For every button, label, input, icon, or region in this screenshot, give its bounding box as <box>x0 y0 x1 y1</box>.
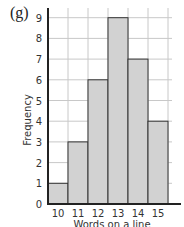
y-tick-label: 2 <box>36 158 42 169</box>
x-axis-label: Words on a line <box>73 219 150 227</box>
histogram-chart: 0123456789101112131415Words on a lineFre… <box>0 0 184 227</box>
y-tick-label: 9 <box>36 13 42 24</box>
histogram-bar <box>68 142 88 204</box>
y-axis-label: Frequency <box>22 94 33 146</box>
y-tick-label: 3 <box>36 137 42 148</box>
histogram-bar <box>108 18 128 204</box>
y-tick-label: 0 <box>36 199 42 210</box>
x-tick-label: 13 <box>112 208 125 219</box>
y-tick-label: 6 <box>36 75 42 86</box>
histogram-bar <box>148 121 168 204</box>
x-tick-label: 10 <box>52 208 65 219</box>
y-tick-label: 5 <box>36 96 42 107</box>
histogram-bar <box>88 80 108 204</box>
x-tick-label: 14 <box>132 208 145 219</box>
x-tick-label: 11 <box>72 208 85 219</box>
x-tick-label: 12 <box>92 208 105 219</box>
y-tick-label: 8 <box>36 33 42 44</box>
y-tick-label: 7 <box>36 54 42 65</box>
y-tick-label: 1 <box>36 178 42 189</box>
histogram-bar <box>48 183 68 204</box>
y-tick-label: 4 <box>36 116 42 127</box>
x-tick-label: 15 <box>152 208 165 219</box>
histogram-bar <box>128 59 148 204</box>
